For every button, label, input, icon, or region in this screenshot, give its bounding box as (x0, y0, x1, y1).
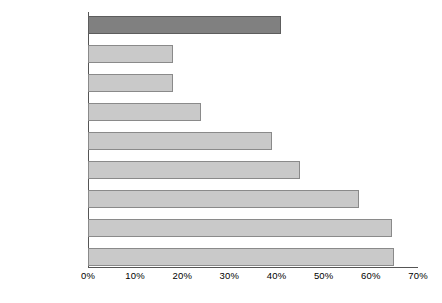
bar (88, 16, 281, 34)
bar (88, 132, 272, 150)
bar (88, 103, 201, 121)
x-axis-tick-label: 70% (388, 270, 442, 281)
bar (88, 190, 359, 208)
bar (88, 161, 300, 179)
x-axis-line (88, 267, 418, 268)
bar (88, 219, 392, 237)
bar (88, 248, 394, 266)
bar (88, 74, 173, 92)
bar-chart: EU AVERAGENORWAYSWITZERLANDU.K.GERMANYIT… (0, 0, 442, 303)
bar (88, 45, 173, 63)
